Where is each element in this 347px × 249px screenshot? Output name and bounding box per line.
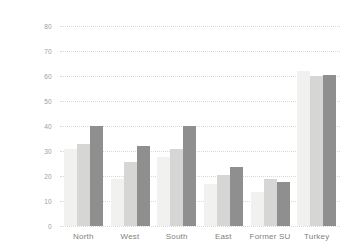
- bar: [277, 182, 290, 227]
- y-axis-tick-label: 70: [0, 48, 52, 55]
- bar-group: [111, 26, 150, 226]
- bar-chart: 01020304050607080 NorthWestSouthEastForm…: [0, 0, 347, 249]
- bar-group: [297, 26, 336, 226]
- bar: [264, 179, 277, 227]
- bar: [137, 146, 150, 226]
- x-axis-category-label: North: [73, 232, 94, 241]
- bar: [230, 167, 243, 226]
- bar: [297, 71, 310, 226]
- bar: [77, 144, 90, 227]
- y-axis-tick-label: 40: [0, 123, 52, 130]
- bar: [310, 76, 323, 226]
- x-axis-category-label: Turkey: [304, 232, 329, 241]
- y-axis-tick-label: 80: [0, 23, 52, 30]
- bar: [323, 75, 336, 226]
- bar-group: [157, 26, 196, 226]
- bar: [157, 157, 170, 226]
- bar-group: [64, 26, 103, 226]
- gridline: [60, 226, 340, 227]
- x-axis-category-label: West: [121, 232, 140, 241]
- bar: [111, 179, 124, 227]
- bar: [64, 149, 77, 227]
- plot-area: [60, 26, 340, 226]
- y-axis-tick-label: 30: [0, 148, 52, 155]
- bar-group: [251, 26, 290, 226]
- y-axis-tick-label: 60: [0, 73, 52, 80]
- y-axis-tick-label: 20: [0, 173, 52, 180]
- x-axis-category-label: Former SU: [250, 232, 291, 241]
- bar: [251, 192, 264, 226]
- y-axis-tick-label: 0: [0, 223, 52, 230]
- bar: [183, 126, 196, 226]
- x-axis-category-label: East: [215, 232, 232, 241]
- bar: [204, 184, 217, 227]
- y-axis-tick-label: 50: [0, 98, 52, 105]
- bar: [217, 175, 230, 226]
- bar: [124, 162, 137, 226]
- y-axis-tick-label: 10: [0, 198, 52, 205]
- bar: [90, 126, 103, 226]
- bar: [170, 149, 183, 227]
- bar-group: [204, 26, 243, 226]
- x-axis-category-label: South: [166, 232, 188, 241]
